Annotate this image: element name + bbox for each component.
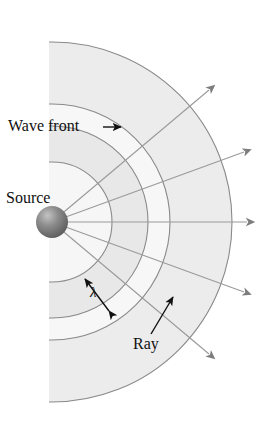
wave-propagation-diagram: Wave front Source λ Ray: [0, 0, 263, 434]
source-sphere: [36, 206, 68, 238]
ray-label: Ray: [133, 336, 159, 352]
wave-front-label: Wave front: [8, 118, 79, 134]
wavelength-label: λ: [90, 285, 97, 300]
source-label: Source: [6, 190, 50, 206]
diagram-canvas: [0, 0, 263, 434]
